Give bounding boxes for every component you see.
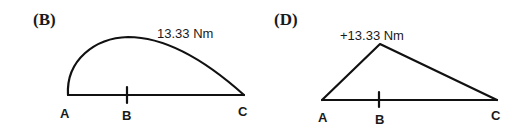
panel-label-b: (B) xyxy=(33,10,56,29)
peak-value-b: 13.33 Nm xyxy=(157,26,213,41)
moment-curve-b xyxy=(68,37,244,95)
diagram-d: (D) +13.33 Nm A B C xyxy=(274,10,501,127)
moment-diagrams: (B) 13.33 Nm A B C (D) +13.33 Nm A B C xyxy=(0,0,527,131)
point-c-label-d: C xyxy=(491,108,501,123)
diagram-b: (B) 13.33 Nm A B C xyxy=(33,10,248,123)
point-b-label-d: B xyxy=(375,112,384,127)
peak-value-d: +13.33 Nm xyxy=(340,28,404,43)
point-a-label: A xyxy=(60,106,70,121)
moment-triangle-d xyxy=(322,44,497,100)
panel-label-d: (D) xyxy=(274,10,298,29)
point-a-label-d: A xyxy=(318,110,328,125)
point-b-label: B xyxy=(122,108,131,123)
point-c-label: C xyxy=(238,104,248,119)
